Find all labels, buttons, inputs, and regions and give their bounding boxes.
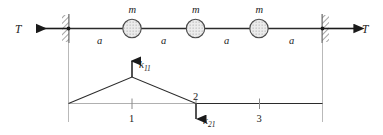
span-label-3: a xyxy=(224,35,229,46)
force-label-k11: k11 xyxy=(139,58,151,73)
tension-label-left: T xyxy=(15,23,23,35)
span-label-4: a xyxy=(289,35,294,46)
string-anchor-left xyxy=(67,27,71,31)
node-label-2: 2 xyxy=(193,91,198,102)
mass-3 xyxy=(250,19,268,37)
mass-label-3: m xyxy=(256,4,264,15)
mass-1 xyxy=(123,19,141,37)
force-label-k21: k21 xyxy=(203,114,215,129)
station-label-1: 1 xyxy=(129,113,134,124)
mass-label-2: m xyxy=(192,4,200,15)
string-anchor-right xyxy=(321,27,325,31)
figure-container: T T m m m a a a xyxy=(0,0,383,135)
mass-2 xyxy=(186,19,204,37)
lower-diagram: 1 3 2 k11 k21 xyxy=(68,58,323,129)
upper-diagram: T T m m m a a a xyxy=(15,4,370,46)
force-label-k11-subscript: 11 xyxy=(144,64,151,73)
span-label-1: a xyxy=(97,35,102,46)
span-label-2: a xyxy=(161,35,166,46)
station-label-3: 3 xyxy=(257,113,262,124)
mass-label-1: m xyxy=(129,4,137,15)
tension-label-right: T xyxy=(362,23,370,35)
string-mass-stiffness-figure: T T m m m a a a xyxy=(0,0,383,135)
force-label-k21-subscript: 21 xyxy=(208,120,216,129)
